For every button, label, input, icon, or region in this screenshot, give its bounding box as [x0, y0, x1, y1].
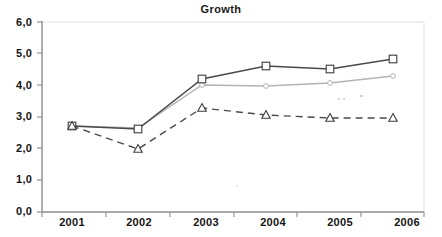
scan-artifact: [360, 95, 363, 97]
scan-artifact: [338, 98, 340, 100]
scan-artifact: [343, 98, 345, 100]
series-2-line: [72, 76, 393, 128]
series-2-markers: [70, 74, 396, 131]
growth-line-chart: Growth 6,0 5,0 4,0 3,0 2,0 1,0 0,0 2001 …: [0, 0, 442, 237]
y-axis-ticks: [37, 22, 42, 212]
plot-area: [0, 0, 442, 237]
scan-artifact: [236, 185, 238, 187]
x-axis-ticks: [42, 212, 424, 217]
